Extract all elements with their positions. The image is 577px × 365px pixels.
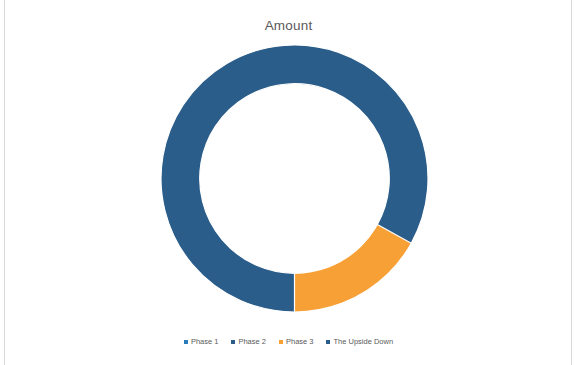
chart-frame-right-rule — [571, 0, 572, 365]
legend-item[interactable]: The Upside Down — [326, 338, 393, 346]
doughnut-chart-container: Amount Phase 1Phase 2Phase 3The Upside D… — [0, 0, 577, 365]
legend-item[interactable]: Phase 2 — [231, 338, 266, 346]
legend-item-label: Phase 3 — [286, 338, 314, 346]
legend-item-label: Phase 1 — [191, 338, 219, 346]
legend-swatch-icon — [279, 340, 283, 344]
legend-item[interactable]: Phase 1 — [184, 338, 219, 346]
legend-item-label: Phase 2 — [238, 338, 266, 346]
doughnut-svg — [161, 45, 428, 312]
legend-item[interactable]: Phase 3 — [279, 338, 314, 346]
legend-swatch-icon — [231, 340, 235, 344]
chart-frame-left-rule — [4, 0, 5, 365]
legend-item-label: The Upside Down — [333, 338, 393, 346]
doughnut-slices — [161, 45, 428, 312]
doughnut-plot-area — [161, 45, 428, 312]
chart-title: Amount — [0, 18, 577, 33]
legend-swatch-icon — [184, 340, 188, 344]
chart-legend: Phase 1Phase 2Phase 3The Upside Down — [0, 338, 577, 346]
legend-swatch-icon — [326, 340, 330, 344]
